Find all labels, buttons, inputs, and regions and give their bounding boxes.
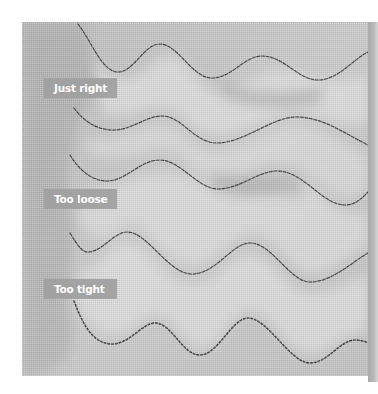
page-edge-strip [368,22,378,382]
label-too-loose: Too loose [44,189,117,209]
label-too-tight: Too tight [44,279,117,299]
label-just-right: Just right [44,78,117,98]
